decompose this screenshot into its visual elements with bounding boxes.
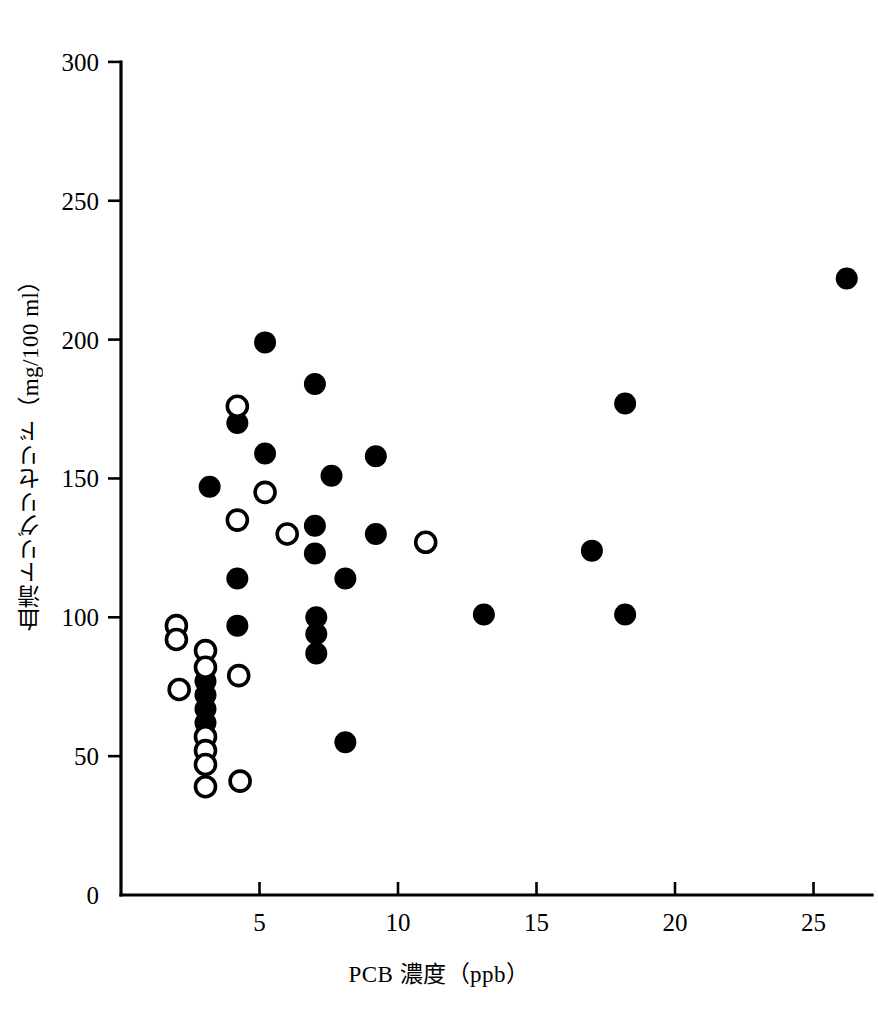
data-point-filled xyxy=(254,442,276,464)
data-point-open xyxy=(227,510,247,530)
y-tick-label-250: 250 xyxy=(62,188,100,215)
data-point-open xyxy=(195,657,215,677)
plot-canvas: 050100150200250300 510152025 xyxy=(0,0,878,1017)
y-axis-tick-labels: 050100150200250300 xyxy=(62,49,100,909)
data-point-open xyxy=(227,396,247,416)
x-axis-label: PCB 濃度（ppb） xyxy=(0,955,878,989)
y-axis-label: 血清トリグリセリド（mg/100 ml） xyxy=(14,268,48,631)
scatter-plot-figure: 050100150200250300 510152025 PCB 濃度（ppb）… xyxy=(0,0,878,1017)
data-point-filled xyxy=(614,392,636,414)
data-point-filled xyxy=(304,542,326,564)
data-point-filled xyxy=(365,523,387,545)
y-tick-label-0: 0 xyxy=(87,882,100,909)
x-axis-tick-labels: 510152025 xyxy=(253,909,826,936)
data-point-open xyxy=(230,771,250,791)
data-point-filled xyxy=(334,731,356,753)
y-tick-label-300: 300 xyxy=(62,49,100,76)
data-point-open xyxy=(169,680,189,700)
axes xyxy=(121,62,872,895)
data-point-filled xyxy=(614,604,636,626)
data-point-open xyxy=(195,777,215,797)
data-point-open xyxy=(229,666,249,686)
x-axis-ticks xyxy=(260,882,814,895)
data-point-filled xyxy=(836,268,858,290)
data-point-filled xyxy=(199,476,221,498)
data-point-group xyxy=(166,268,857,797)
data-point-filled xyxy=(254,331,276,353)
y-tick-label-50: 50 xyxy=(74,743,99,770)
x-tick-label-10: 10 xyxy=(386,909,411,936)
data-point-filled xyxy=(321,465,343,487)
data-point-open xyxy=(166,630,186,650)
y-tick-label-100: 100 xyxy=(62,604,100,631)
x-tick-label-20: 20 xyxy=(663,909,688,936)
x-tick-label-5: 5 xyxy=(253,909,266,936)
data-point-filled xyxy=(304,373,326,395)
data-point-filled xyxy=(226,567,248,589)
data-point-filled xyxy=(305,623,327,645)
y-axis-ticks xyxy=(108,62,121,756)
x-tick-label-15: 15 xyxy=(524,909,549,936)
data-point-filled xyxy=(473,604,495,626)
data-point-open xyxy=(416,532,436,552)
data-point-filled xyxy=(305,642,327,664)
y-tick-label-200: 200 xyxy=(62,327,100,354)
x-tick-label-25: 25 xyxy=(801,909,826,936)
data-point-open xyxy=(277,524,297,544)
data-point-filled xyxy=(226,615,248,637)
data-point-filled xyxy=(334,567,356,589)
data-point-filled xyxy=(365,445,387,467)
y-axis-label-wrapper: 血清トリグリセリド（mg/100 ml） xyxy=(8,0,54,900)
data-point-filled xyxy=(304,515,326,537)
data-point-filled xyxy=(581,540,603,562)
data-point-open xyxy=(195,754,215,774)
y-tick-label-150: 150 xyxy=(62,465,100,492)
data-point-open xyxy=(255,482,275,502)
